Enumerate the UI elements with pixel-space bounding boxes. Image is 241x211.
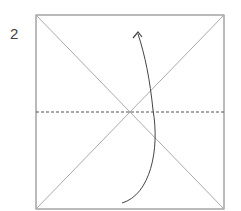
fold-diagram — [0, 0, 241, 211]
arrowhead-icon — [133, 32, 142, 38]
fold-arrow-icon — [122, 34, 155, 203]
